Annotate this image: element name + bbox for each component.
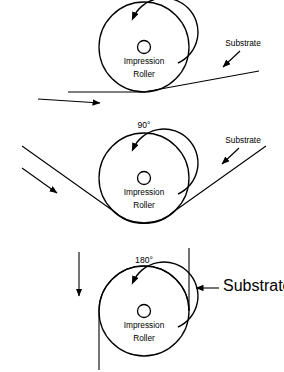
substrate-label: Substrate (225, 38, 261, 48)
substrate-label: Substrate (223, 277, 284, 294)
roller-label-line2: Roller (133, 200, 155, 210)
roller-hub-circle (138, 41, 151, 54)
roller-label-line2: Roller (133, 69, 155, 79)
roller-hub-circle (138, 172, 151, 185)
panel-zero-degree: Impression Roller Substrate (38, 0, 261, 103)
substrate-pointer-arrow (222, 148, 239, 164)
roller-label-line1: Impression (124, 320, 165, 330)
diagram-canvas: Impression Roller Substrate 90° Impressi… (0, 0, 284, 372)
roller-hub-circle (138, 305, 151, 318)
wrap-angle-label: 180° (135, 255, 153, 265)
travel-direction-arrow (22, 168, 57, 193)
panel-ninety-degree: 90° Impression Roller Substrate (22, 120, 266, 223)
roller-label-line2: Roller (133, 333, 155, 343)
substrate-web-line (68, 71, 259, 92)
impression-roller-diagram: Impression Roller Substrate 90° Impressi… (0, 0, 284, 372)
panel-one-eighty-degree: 180° Impression Roller Substrate (79, 248, 284, 370)
substrate-label: Substrate (225, 135, 261, 145)
roller-label-line1: Impression (124, 187, 165, 197)
wrap-angle-label: 90° (138, 120, 151, 130)
travel-direction-arrow (38, 99, 100, 103)
substrate-pointer-arrow (223, 51, 240, 67)
roller-label-line1: Impression (124, 56, 165, 66)
